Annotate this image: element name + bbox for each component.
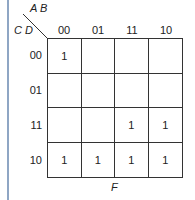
- kmap-cell: [149, 74, 183, 109]
- kmap-cell: [82, 39, 116, 74]
- kmap-cell: [149, 39, 183, 74]
- kmap-cell: [115, 74, 149, 109]
- row-label: 11: [22, 119, 42, 131]
- column-label: 00: [47, 24, 81, 36]
- kmap-cell: 1: [115, 108, 149, 143]
- column-label: 01: [81, 24, 115, 36]
- kmap-cell: [48, 74, 82, 109]
- kmap-cell: 1: [48, 39, 82, 74]
- kmap-cell: 1: [48, 143, 82, 178]
- kmap-cell: [82, 74, 116, 109]
- kmap-cell: 1: [149, 143, 183, 178]
- row-label: 00: [22, 49, 42, 61]
- kmap-cell: 1: [115, 143, 149, 178]
- row-label: 01: [22, 84, 42, 96]
- kmap-cell: [115, 39, 149, 74]
- kmap-cell: [48, 108, 82, 143]
- kmap-cell: 1: [82, 143, 116, 178]
- function-label: F: [111, 181, 118, 193]
- kmap-cell: 1: [149, 108, 183, 143]
- row-variable-label: C D: [14, 24, 33, 36]
- column-label: 11: [115, 24, 149, 36]
- kmap-cell: [82, 108, 116, 143]
- column-label: 10: [149, 24, 183, 36]
- karnaugh-map-grid: 1 1 1 1 1 1 1: [47, 38, 183, 178]
- row-label: 10: [22, 154, 42, 166]
- column-variable-label: A B: [30, 2, 47, 14]
